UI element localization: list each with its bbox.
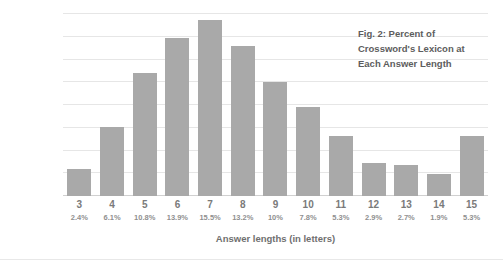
x-axis-label-group: 32.4% xyxy=(63,199,96,223)
x-axis-value-label: 7.8% xyxy=(292,212,325,223)
bar[interactable] xyxy=(427,174,451,196)
x-axis-label-group: 613.9% xyxy=(161,199,194,223)
bar-slot xyxy=(226,14,259,196)
bar-slot xyxy=(96,14,129,196)
x-axis-category-label: 3 xyxy=(63,199,96,211)
bar-slot xyxy=(128,14,161,196)
x-axis-category-label: 14 xyxy=(423,199,456,211)
x-axis-title: Answer lengths (in letters) xyxy=(63,233,488,244)
bar-slot xyxy=(325,14,358,196)
bar[interactable] xyxy=(329,136,353,196)
x-axis-category-label: 10 xyxy=(292,199,325,211)
x-axis-label-group: 46.1% xyxy=(96,199,129,223)
x-axis-label-group: 107.8% xyxy=(292,199,325,223)
x-axis-category-label: 13 xyxy=(390,199,423,211)
bar[interactable] xyxy=(460,136,484,196)
bar[interactable] xyxy=(296,107,320,196)
x-axis-value-label: 10.8% xyxy=(128,212,161,223)
x-axis-label-group: 715.5% xyxy=(194,199,227,223)
x-axis-value-label: 15.5% xyxy=(194,212,227,223)
x-axis-category-label: 6 xyxy=(161,199,194,211)
x-axis-label-group: 813.2% xyxy=(226,199,259,223)
x-axis-value-label: 2.7% xyxy=(390,212,423,223)
x-axis-value-label: 5.3% xyxy=(455,212,488,223)
chart-title-line: Crossword's Lexicon at xyxy=(358,41,498,56)
bar[interactable] xyxy=(100,127,124,196)
x-axis-tick-labels: 32.4%46.1%510.8%613.9%715.5%813.2%910%10… xyxy=(63,199,488,223)
bar[interactable] xyxy=(231,46,255,196)
bar-slot xyxy=(63,14,96,196)
x-axis-value-label: 6.1% xyxy=(96,212,129,223)
bar-slot xyxy=(194,14,227,196)
x-axis-category-label: 15 xyxy=(455,199,488,211)
x-axis-category-label: 8 xyxy=(226,199,259,211)
x-axis-label-group: 132.7% xyxy=(390,199,423,223)
x-axis-value-label: 2.9% xyxy=(357,212,390,223)
x-axis-label-group: 115.3% xyxy=(325,199,358,223)
bar[interactable] xyxy=(394,165,418,196)
x-axis-value-label: 13.9% xyxy=(161,212,194,223)
bar[interactable] xyxy=(133,73,157,196)
bar[interactable] xyxy=(198,20,222,196)
x-axis-category-label: 11 xyxy=(325,199,358,211)
bar-slot xyxy=(161,14,194,196)
x-axis-category-label: 5 xyxy=(128,199,161,211)
x-axis-category-label: 4 xyxy=(96,199,129,211)
bar[interactable] xyxy=(362,163,386,196)
bar-slot xyxy=(292,14,325,196)
x-axis-category-label: 9 xyxy=(259,199,292,211)
x-axis-value-label: 1.9% xyxy=(423,212,456,223)
x-axis-label-group: 122.9% xyxy=(357,199,390,223)
chart-title-line: Fig. 2: Percent of xyxy=(358,26,498,41)
x-axis-value-label: 10% xyxy=(259,212,292,223)
bar-slot xyxy=(259,14,292,196)
x-axis-category-label: 7 xyxy=(194,199,227,211)
chart-title: Fig. 2: Percent ofCrossword's Lexicon at… xyxy=(358,26,498,71)
x-axis-value-label: 2.4% xyxy=(63,212,96,223)
x-axis-value-label: 13.2% xyxy=(226,212,259,223)
x-axis-label-group: 510.8% xyxy=(128,199,161,223)
x-axis-value-label: 5.3% xyxy=(325,212,358,223)
x-axis-category-label: 12 xyxy=(357,199,390,211)
x-axis-label-group: 910% xyxy=(259,199,292,223)
bar[interactable] xyxy=(67,169,91,196)
bar[interactable] xyxy=(263,82,287,196)
chart-figure: Percent of crossword's lexicon 0%2%4%6%8… xyxy=(0,0,503,260)
x-axis-label-group: 141.9% xyxy=(423,199,456,223)
x-axis-label-group: 155.3% xyxy=(455,199,488,223)
chart-title-line: Each Answer Length xyxy=(358,56,498,71)
bar[interactable] xyxy=(165,38,189,196)
